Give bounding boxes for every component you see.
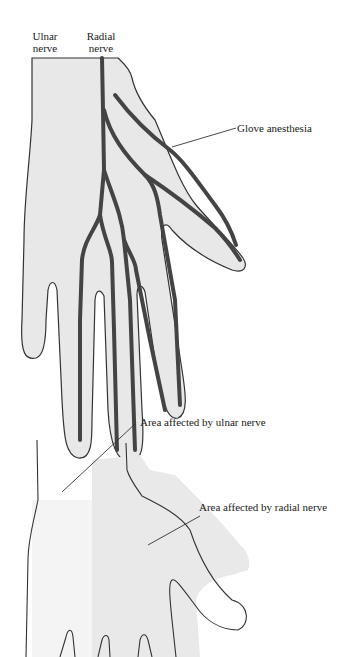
ulnar-area-shading — [32, 500, 92, 657]
ulnar-area-label: Area affected by ulnar nerve — [140, 416, 266, 428]
radial-area-label: Area affected by radial nerve — [199, 501, 327, 513]
top-hand — [22, 58, 246, 462]
ulnar-nerve-label-line2: nerve — [28, 42, 62, 54]
ulnar-nerve-label: Ulnar nerve — [28, 30, 62, 54]
radial-area-shading — [92, 455, 249, 657]
radial-nerve-label-line1: Radial — [82, 30, 120, 42]
glove-leader-line — [172, 128, 236, 147]
bottom-hand — [26, 424, 249, 657]
glove-anesthesia-label: Glove anesthesia — [237, 122, 312, 134]
radial-nerve-label-line2: nerve — [82, 42, 120, 54]
diagram-canvas — [0, 0, 348, 657]
ulnar-nerve-label-line1: Ulnar — [28, 30, 62, 42]
radial-nerve-label: Radial nerve — [82, 30, 120, 54]
